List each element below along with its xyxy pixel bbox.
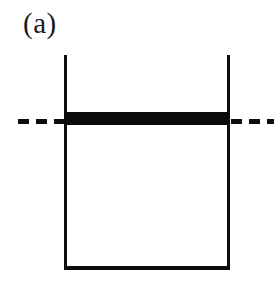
dash-segment bbox=[249, 119, 260, 124]
dash-segment bbox=[231, 119, 242, 124]
dash-segment bbox=[36, 119, 47, 124]
figure-panel: (a) bbox=[0, 0, 274, 281]
container-right-wall bbox=[227, 55, 230, 270]
container-left-wall bbox=[64, 55, 67, 270]
dash-segment bbox=[267, 119, 274, 124]
container-bottom-wall bbox=[64, 266, 230, 270]
level-bar bbox=[64, 112, 230, 125]
dashed-reference-line-left bbox=[28, 118, 65, 124]
panel-label: (a) bbox=[23, 6, 57, 40]
dash-segment bbox=[18, 119, 29, 124]
dashed-reference-line-right bbox=[231, 118, 271, 124]
